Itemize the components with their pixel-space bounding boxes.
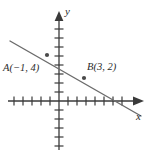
- y-axis-arrowhead: [55, 11, 64, 21]
- x-axis-label: x: [135, 110, 141, 122]
- y-axis-label: y: [64, 5, 70, 17]
- point-a-label: A(−1, 4): [2, 62, 40, 74]
- point-b-label: B(3, 2): [87, 61, 117, 73]
- point-b-marker: [82, 76, 86, 80]
- x-axis-arrowhead: [133, 97, 144, 106]
- line-through-a-b: [10, 41, 141, 116]
- point-a-marker: [45, 53, 49, 57]
- coordinate-graph-figure: y x A(−1, 4) B(3, 2): [0, 0, 153, 159]
